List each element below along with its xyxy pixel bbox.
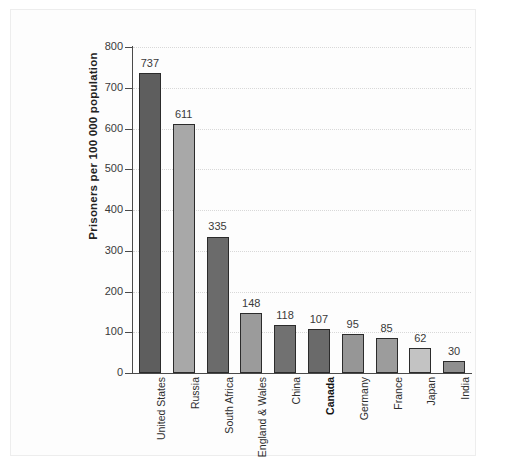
bar <box>342 334 364 373</box>
x-category-label: France <box>392 377 406 410</box>
y-tick-label: 700 <box>83 82 123 93</box>
y-tick-label: 100 <box>83 326 123 337</box>
y-tick-mark <box>125 47 132 48</box>
x-category-label: Japan <box>425 377 439 406</box>
x-axis-line <box>132 373 472 374</box>
bar-value-label: 30 <box>434 346 474 357</box>
x-category-label: Russia <box>189 377 203 409</box>
y-tick-mark <box>125 129 132 130</box>
y-axis-title: Prisoners per 100 000 population <box>87 41 99 251</box>
y-tick-mark <box>125 88 132 89</box>
x-category-label: China <box>290 377 304 404</box>
bar <box>443 361 465 373</box>
bar <box>173 124 195 373</box>
bar-value-label: 611 <box>164 109 204 120</box>
y-tick: 500 <box>77 163 123 175</box>
y-tick: 800 <box>77 41 123 53</box>
y-tick-mark <box>125 373 132 374</box>
y-tick-label: 300 <box>83 245 123 256</box>
y-tick: 400 <box>77 204 123 216</box>
y-tick: 300 <box>77 245 123 257</box>
figure: Prisoners per 100 000 population 8007006… <box>0 0 528 469</box>
y-tick-mark <box>125 332 132 333</box>
y-tick: 100 <box>77 326 123 338</box>
gridline <box>133 47 471 48</box>
y-tick-label: 400 <box>83 204 123 215</box>
bar <box>207 237 229 374</box>
x-category-label: Germany <box>358 377 372 420</box>
y-tick-mark <box>125 210 132 211</box>
x-category-label: South Africa <box>223 377 237 434</box>
bar <box>139 73 161 373</box>
y-tick-label: 800 <box>83 41 123 52</box>
bar-value-label: 335 <box>198 221 238 232</box>
y-tick: 600 <box>77 123 123 135</box>
bar <box>240 313 262 373</box>
bar-value-label: 148 <box>231 298 271 309</box>
y-tick-label: 600 <box>83 123 123 134</box>
chart-frame: Prisoners per 100 000 population 8007006… <box>10 9 476 456</box>
bar <box>274 325 296 373</box>
y-tick: 200 <box>77 286 123 298</box>
x-category-label: Canada <box>324 377 338 415</box>
y-tick-mark <box>125 251 132 252</box>
y-tick-label: 200 <box>83 286 123 297</box>
x-category-label: United States <box>155 377 169 440</box>
gridline <box>133 88 471 89</box>
y-tick-label: 0 <box>83 367 123 378</box>
plot-area: 73761133514811810795856230 <box>133 47 471 373</box>
y-tick-label: 500 <box>83 163 123 174</box>
bar-value-label: 737 <box>130 58 170 69</box>
bar <box>376 338 398 373</box>
bar-value-label: 62 <box>400 333 440 344</box>
bar <box>409 348 431 373</box>
x-category-label: India <box>459 377 473 400</box>
y-tick: 700 <box>77 82 123 94</box>
y-tick: 0 <box>77 367 123 379</box>
y-tick-mark <box>125 169 132 170</box>
x-category-label: England & Wales <box>256 377 270 457</box>
bar <box>308 329 330 373</box>
y-tick-mark <box>125 292 132 293</box>
